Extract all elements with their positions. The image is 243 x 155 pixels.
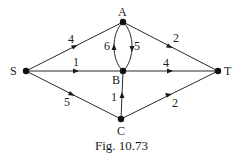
weight-s-b: 1 bbox=[73, 55, 79, 69]
weight-b-a: 6 bbox=[104, 39, 110, 53]
node-b bbox=[120, 68, 126, 74]
arrow-b-a-icon bbox=[112, 44, 117, 50]
arrow-c-b-icon bbox=[120, 92, 125, 98]
weight-c-b: 1 bbox=[111, 90, 117, 104]
node-label-s: S bbox=[10, 64, 17, 78]
weight-s-c: 5 bbox=[64, 95, 70, 109]
weight-c-t: 2 bbox=[172, 96, 178, 110]
edge-b-a-arc bbox=[114, 22, 123, 71]
node-label-b: B bbox=[112, 73, 120, 87]
node-label-t: T bbox=[224, 64, 232, 78]
node-c bbox=[118, 116, 124, 122]
weight-a-t: 2 bbox=[173, 31, 179, 45]
weight-s-a: 4 bbox=[68, 32, 74, 46]
node-s bbox=[23, 68, 29, 74]
node-a bbox=[120, 19, 126, 25]
arrow-s-b-icon bbox=[73, 69, 79, 74]
figure-caption: Fig. 10.73 bbox=[95, 138, 148, 153]
network-diagram: S A B C T 4 1 5 6 5 2 4 1 2 Fig. 10.73 bbox=[0, 0, 243, 155]
weight-a-b: 5 bbox=[134, 39, 140, 53]
node-label-a: A bbox=[118, 5, 127, 19]
node-t bbox=[215, 68, 221, 74]
node-label-c: C bbox=[117, 124, 125, 138]
weight-b-t: 4 bbox=[163, 56, 169, 70]
